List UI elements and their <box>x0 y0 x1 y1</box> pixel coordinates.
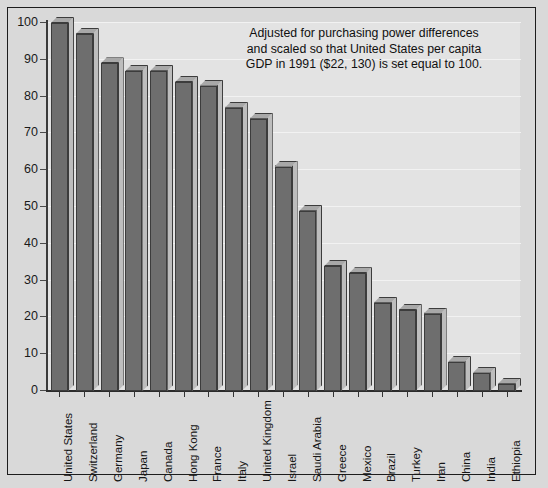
y-axis-tick-label: 30 <box>8 274 38 287</box>
x-axis-tick-label: Ethiopia <box>511 440 523 482</box>
bar-front-face <box>275 167 292 391</box>
x-axis-tick <box>159 391 160 397</box>
x-axis-tick-label: China <box>461 452 473 482</box>
y-axis-tick-label: 10 <box>8 347 38 360</box>
bar-front-face <box>498 384 515 391</box>
y-axis-tick <box>40 353 46 354</box>
x-axis-tick <box>109 391 110 397</box>
bar <box>76 28 93 391</box>
y-axis-tick-label: 100 <box>8 16 38 29</box>
x-axis-tick-label: Israel <box>287 454 299 482</box>
bar <box>225 102 242 391</box>
bar <box>349 267 366 391</box>
y-axis-tick <box>40 390 46 391</box>
y-axis-tick-label: 90 <box>8 53 38 66</box>
x-axis-tick-label: Germany <box>113 435 125 482</box>
bar-front-face <box>51 23 68 391</box>
y-axis-tick <box>40 59 46 60</box>
x-axis-tick <box>208 391 209 397</box>
x-axis-tick <box>258 391 259 397</box>
bar-side-face <box>242 102 248 391</box>
bar <box>299 205 316 391</box>
bar-side-face <box>68 17 74 391</box>
x-axis-tick <box>358 391 359 397</box>
x-axis-tick-label: Saudi Arabia <box>312 417 324 482</box>
x-axis-tick <box>283 391 284 397</box>
x-axis-tick-label: Hong Kong <box>188 424 200 482</box>
bar-front-face <box>349 273 366 391</box>
bar-side-face <box>292 161 298 391</box>
bar <box>250 113 267 391</box>
bar-front-face <box>125 71 142 391</box>
x-axis-tick <box>333 391 334 397</box>
annotation-line-3: GDP in 1991 ($22, 130) is set equal to 1… <box>222 57 506 73</box>
annotation-line-2: and scaled so that United States per cap… <box>222 42 506 58</box>
x-axis-tick <box>482 391 483 397</box>
x-axis-tick-label: Greece <box>337 444 349 482</box>
y-axis-tick-label: 50 <box>8 200 38 213</box>
bar <box>275 161 292 391</box>
x-axis-tick <box>134 391 135 397</box>
y-axis-tick <box>40 316 46 317</box>
x-axis-tick <box>59 391 60 397</box>
y-axis-tick <box>40 169 46 170</box>
y-axis-tick-label: 80 <box>8 90 38 103</box>
bar-front-face <box>424 314 441 391</box>
y-axis-tick-label: 0 <box>8 384 38 397</box>
bar <box>324 260 341 391</box>
bar-front-face <box>448 362 465 391</box>
y-axis-tick <box>40 206 46 207</box>
bar-front-face <box>324 266 341 391</box>
x-axis-tick-label: India <box>486 457 498 482</box>
x-axis-tick-label: Switzerland <box>88 423 100 482</box>
bar <box>101 57 118 391</box>
x-axis-tick <box>432 391 433 397</box>
bar <box>399 304 416 391</box>
x-axis-tick <box>507 391 508 397</box>
bar-side-face <box>341 260 347 391</box>
bar <box>448 356 465 391</box>
y-axis-labels: 0102030405060708090100 <box>0 0 38 488</box>
bar-front-face <box>200 86 217 391</box>
bar-side-face <box>465 356 471 391</box>
bar-side-face <box>316 205 322 391</box>
bar <box>125 65 142 391</box>
bar <box>175 76 192 391</box>
bar-front-face <box>299 211 316 391</box>
bar-front-face <box>76 34 93 391</box>
bar-front-face <box>225 108 242 391</box>
bar-side-face <box>192 76 198 391</box>
chart-screenshot: 0102030405060708090100 United StatesSwit… <box>0 0 548 488</box>
bar <box>473 367 490 391</box>
bar-side-face <box>441 308 447 391</box>
bar-front-face <box>374 303 391 391</box>
x-axis-tick <box>407 391 408 397</box>
bar <box>150 65 167 391</box>
y-axis-tick-label: 40 <box>8 237 38 250</box>
x-axis-tick-label: France <box>212 446 224 482</box>
bar-front-face <box>250 119 267 391</box>
x-axis-tick <box>382 391 383 397</box>
x-axis-tick <box>84 391 85 397</box>
bar-side-face <box>167 65 173 391</box>
bar-front-face <box>399 310 416 391</box>
bar-front-face <box>473 373 490 391</box>
bar-side-face <box>142 65 148 391</box>
x-axis-tick-label: United Kingdom <box>262 400 274 482</box>
x-axis-tick-label: Canada <box>163 442 175 482</box>
bar <box>498 378 515 391</box>
y-axis-tick <box>40 243 46 244</box>
x-axis-tick <box>457 391 458 397</box>
annotation-line-1: Adjusted for purchasing power difference… <box>222 26 506 42</box>
x-axis-tick-label: Iran <box>436 462 448 482</box>
x-axis-tick-label: Italy <box>237 461 249 482</box>
bar <box>424 308 441 391</box>
x-axis-tick-label: Mexico <box>362 446 374 482</box>
y-axis-tick-label: 20 <box>8 310 38 323</box>
y-axis-tick <box>40 22 46 23</box>
x-axis-tick <box>184 391 185 397</box>
bar-side-face <box>93 28 99 391</box>
bar-side-face <box>391 297 397 391</box>
y-axis-tick-label: 60 <box>8 163 38 176</box>
y-axis-tick-label: 70 <box>8 126 38 139</box>
